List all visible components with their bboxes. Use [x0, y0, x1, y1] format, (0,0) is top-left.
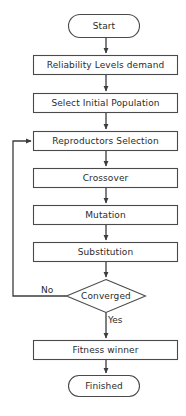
node-select-initial-population-shape[interactable] — [34, 94, 178, 113]
node-start-shape[interactable] — [69, 15, 140, 38]
flowchart-svg — [0, 0, 186, 416]
node-reliability-levels-demand-shape[interactable] — [34, 56, 178, 75]
flowchart-canvas: Start Reliability Levels demand Select I… — [0, 0, 186, 416]
node-finished-shape[interactable] — [69, 376, 140, 397]
node-reproductors-selection-shape[interactable] — [34, 132, 178, 151]
node-crossover-shape[interactable] — [34, 169, 178, 188]
node-converged-shape[interactable] — [67, 280, 146, 313]
node-mutation-shape[interactable] — [34, 206, 178, 225]
node-fitness-winner-shape[interactable] — [34, 341, 178, 360]
node-substitution-shape[interactable] — [34, 243, 178, 262]
